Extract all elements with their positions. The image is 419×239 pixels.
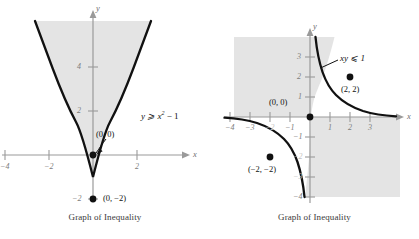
- point-marker-origin: [307, 114, 314, 121]
- point-label-2-2: (2, 2): [341, 85, 359, 94]
- point-label-0-minus2: (0, −2): [103, 194, 126, 203]
- x-tick-label--4: −4: [0, 163, 9, 171]
- inequality-label-hyperbola: xy ⩽ 1: [340, 54, 365, 63]
- point-label-origin: (0, 0): [269, 98, 287, 107]
- hyperbola-plot-svg: [210, 0, 419, 210]
- y-tick-label-3: 3: [297, 53, 301, 61]
- x-tick-label--3: −3: [245, 124, 254, 132]
- y-tick-label-2: 2: [297, 73, 301, 81]
- y-tick-label-2: 2: [77, 107, 81, 115]
- plot-area-hyperbola: x y −4 −3 −2 −1 1 2 3 3 2 1 −1 −2 −3 −4 …: [210, 0, 419, 210]
- x-tick-label--2: −2: [44, 163, 53, 171]
- x-axis-arrow: [182, 152, 190, 159]
- y-axis-label: y: [313, 22, 317, 31]
- inequality-tail: − 1: [165, 111, 179, 121]
- x-axis-label: x: [193, 150, 197, 159]
- parabola-plot-svg: [0, 0, 210, 210]
- y-tick-label-4: 4: [77, 63, 81, 71]
- y-tick-label--2: −2: [293, 153, 302, 161]
- point-label-origin: (0, 0): [96, 130, 114, 139]
- x-tick-label--4: −4: [225, 124, 234, 132]
- x-axis-label: x: [407, 112, 411, 121]
- figure-caption-hyperbola: Graph of Inequality: [210, 212, 419, 222]
- plot-area-parabola: x y −4 −2 2 4 2 −2 (0, 0) (0, −2) y ⩾ x2…: [0, 0, 210, 210]
- inequality-head: y ⩾ x: [141, 111, 162, 121]
- y-tick-label--3: −3: [293, 173, 302, 181]
- x-tick-label-1: 1: [328, 124, 332, 132]
- y-tick-label-1: 1: [298, 93, 302, 101]
- inequality-label-parabola: y ⩾ x2 − 1: [141, 110, 179, 121]
- point-marker-minus2-minus2: [267, 154, 274, 161]
- y-tick-label--2: −2: [72, 195, 81, 203]
- point-marker-origin: [90, 152, 97, 159]
- x-tick-label-2: 2: [135, 163, 139, 171]
- x-tick-label-2: 2: [348, 124, 352, 132]
- y-tick-label--4: −4: [293, 193, 302, 201]
- shaded-region-lower-right: [305, 117, 400, 197]
- x-tick-label--2: −2: [265, 124, 274, 132]
- x-tick-label-3: 3: [368, 124, 372, 132]
- figure-parabola-inequality: x y −4 −2 2 4 2 −2 (0, 0) (0, −2) y ⩾ x2…: [0, 0, 210, 239]
- figure-caption-parabola: Graph of Inequality: [0, 212, 210, 222]
- point-marker-0-minus2: [90, 196, 97, 203]
- point-label-minus2-minus2: (−2, −2): [248, 165, 276, 174]
- figure-hyperbola-inequality: x y −4 −3 −2 −1 1 2 3 3 2 1 −1 −2 −3 −4 …: [210, 0, 419, 239]
- y-axis-label: y: [96, 4, 100, 13]
- x-tick-label--1: −1: [285, 124, 294, 132]
- y-tick-label--1: −1: [293, 133, 302, 141]
- point-marker-2-2: [347, 74, 354, 81]
